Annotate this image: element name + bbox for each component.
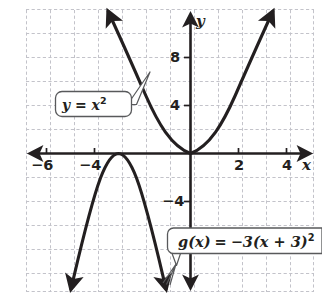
x-tick-label-4: 4	[282, 157, 292, 173]
x-axis-label: x	[302, 156, 311, 174]
x-tick-label--4: −4	[79, 157, 101, 173]
callout-box-g	[168, 228, 322, 254]
y-tick-label--4: −4	[162, 193, 184, 209]
callout-y-equals-x-squared-shape	[56, 72, 151, 117]
x-tick-label-2: 2	[234, 157, 244, 173]
graph-figure: −6 −4 2 4 8 4 −4 y x y = x2 g(x)=−3(x + …	[0, 0, 322, 299]
callout-box-y	[56, 92, 132, 117]
coordinate-plane	[0, 0, 322, 299]
parabola-g-of-x	[71, 154, 166, 290]
y-tick-label-8: 8	[170, 49, 180, 65]
y-axis-label: y	[196, 12, 205, 30]
x-tick-label--6: −6	[31, 157, 53, 173]
y-tick-label-4: 4	[170, 97, 180, 113]
